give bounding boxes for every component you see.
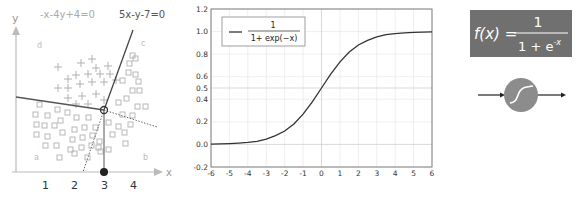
svg-text:1.2: 1.2 [196, 5, 208, 14]
svg-text:4: 4 [393, 169, 398, 178]
svg-text:1.0: 1.0 [196, 27, 208, 36]
svg-text:6: 6 [430, 169, 435, 178]
legend-numerator: 1 [270, 21, 275, 30]
legend-denominator: 1+ exp(−x) [251, 34, 298, 43]
line2-equation: 5x-y-7=0 [119, 9, 165, 20]
region-label-b: b [143, 153, 148, 162]
svg-text:0.5: 0.5 [196, 84, 208, 93]
sigmoid-formula: f(x) = 1 1 + e-x [470, 10, 572, 57]
chart-legend: 1 1+ exp(−x) [222, 17, 305, 46]
region-label-d: d [37, 41, 42, 50]
svg-text:-2: -2 [281, 169, 289, 178]
svg-text:3: 3 [374, 169, 379, 178]
formula-lhs: f(x) = [474, 25, 517, 43]
plus-markers [54, 55, 120, 108]
svg-text:-0.2: -0.2 [193, 163, 208, 172]
y-axis-label: y [12, 12, 19, 25]
y-tick-labels: -0.2 0.0 0.2 0.4 0.5 0.6 0.8 1.0 1.2 [193, 5, 208, 172]
svg-text:1: 1 [338, 169, 343, 178]
line1-equation: -x-4y+4=0 [40, 9, 95, 20]
x-axis-arrow-icon [154, 168, 163, 176]
svg-text:-4: -4 [244, 169, 252, 178]
svg-text:0.6: 0.6 [196, 72, 208, 81]
sigmoid-chart: -0.2 0.0 0.2 0.4 0.5 0.6 0.8 1.0 1.2 -6 … [193, 5, 434, 178]
x-tick-labels: -6 -5 -4 -3 -2 -1 0 1 2 3 4 5 6 [207, 169, 434, 178]
x-tick-2: 2 [71, 179, 78, 192]
svg-text:0.0: 0.0 [196, 140, 208, 149]
svg-text:0: 0 [319, 169, 324, 178]
figure-canvas: y x -x-4y+4=0 5x-y-7=0 a b c d [0, 0, 579, 197]
x-tick-1: 1 [42, 179, 49, 192]
svg-text:-1: -1 [299, 169, 307, 178]
svg-text:-5: -5 [226, 169, 234, 178]
svg-text:5: 5 [411, 169, 416, 178]
formula-numerator: 1 [534, 14, 543, 30]
square-markers [33, 53, 148, 160]
x-axis-label: x [166, 167, 172, 178]
sigmoid-neuron-icon [478, 78, 566, 112]
svg-text:-6: -6 [207, 169, 215, 178]
svg-text:0.4: 0.4 [196, 95, 208, 104]
region-label-a: a [34, 153, 39, 162]
x-intercept-dot-icon [100, 168, 108, 176]
decision-boundary-diagram: y x -x-4y+4=0 5x-y-7=0 a b c d [12, 9, 172, 192]
x-tick-3: 3 [101, 179, 108, 192]
svg-text:0.8: 0.8 [196, 50, 208, 59]
x-tick-4: 4 [130, 179, 137, 192]
svg-text:0.2: 0.2 [196, 117, 208, 126]
svg-text:-3: -3 [263, 169, 271, 178]
svg-text:2: 2 [356, 169, 361, 178]
region-label-c: c [141, 39, 145, 48]
y-axis-arrow-icon [12, 26, 20, 35]
